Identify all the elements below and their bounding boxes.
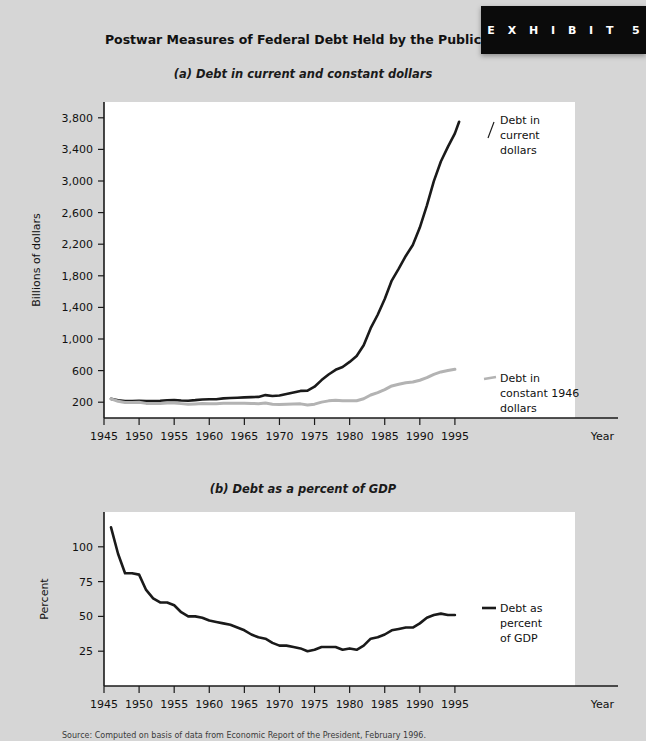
series-label-debt-gdp: percent — [500, 617, 543, 630]
series-label-current-dollars: dollars — [500, 144, 537, 157]
x-tick-label: 1970 — [265, 698, 293, 711]
y-tick-label: 3,400 — [62, 143, 94, 156]
x-tick-label: 1995 — [441, 698, 469, 711]
x-tick-label: 1990 — [406, 430, 434, 443]
x-tick-label: 1960 — [195, 430, 223, 443]
chart-a-svg: 2006001,0001,4001,8002,2002,6003,0003,40… — [18, 88, 628, 463]
x-tick-label: 1950 — [125, 698, 153, 711]
chart-b-svg: 2550751001945195019551960196519701975198… — [18, 500, 628, 722]
y-tick-label: 600 — [72, 365, 93, 378]
x-tick-label: 1980 — [336, 698, 364, 711]
series-label-current-dollars: current — [500, 129, 540, 142]
series-label-debt-gdp: of GDP — [500, 632, 538, 645]
y-tick-label: 75 — [79, 576, 93, 589]
y-tick-label: 200 — [72, 396, 93, 409]
x-axis-title: Year — [590, 430, 615, 443]
panel-a-subtitle: (a) Debt in current and constant dollars — [0, 67, 646, 81]
x-tick-label: 1960 — [195, 698, 223, 711]
x-tick-label: 1955 — [160, 698, 188, 711]
chart-panel-debt-gdp: 2550751001945195019551960196519701975198… — [18, 500, 628, 722]
y-tick-label: 50 — [79, 610, 93, 623]
series-label-current-dollars: Debt in — [500, 114, 540, 127]
x-tick-label: 1990 — [406, 698, 434, 711]
series-label-constant-dollars: Debt in — [500, 372, 540, 385]
x-tick-label: 1955 — [160, 430, 188, 443]
x-tick-label: 1985 — [371, 430, 399, 443]
y-tick-label: 3,800 — [62, 112, 94, 125]
y-tick-label: 1,800 — [62, 270, 94, 283]
x-tick-label: 1985 — [371, 698, 399, 711]
y-tick-label: 2,200 — [62, 238, 94, 251]
y-tick-label: 100 — [72, 541, 93, 554]
y-tick-label: 1,400 — [62, 301, 94, 314]
chart-panel-debt-dollars: 2006001,0001,4001,8002,2002,6003,0003,40… — [18, 88, 628, 463]
y-tick-label: 1,000 — [62, 333, 94, 346]
plot-background — [104, 512, 575, 686]
panel-b-subtitle: (b) Debt as a percent of GDP — [0, 482, 646, 496]
x-tick-label: 1965 — [230, 430, 258, 443]
x-tick-label: 1945 — [90, 430, 118, 443]
x-axis-title: Year — [590, 698, 615, 711]
y-tick-label: 3,000 — [62, 175, 94, 188]
source-note: Source: Computed on basis of data from E… — [62, 731, 426, 740]
y-tick-label: 2,600 — [62, 207, 94, 220]
x-tick-label: 1995 — [441, 430, 469, 443]
page-title: Postwar Measures of Federal Debt Held by… — [0, 32, 646, 47]
x-tick-label: 1975 — [301, 430, 329, 443]
y-axis-title: Billions of dollars — [30, 213, 43, 307]
x-tick-label: 1965 — [230, 698, 258, 711]
series-label-debt-gdp: Debt as — [500, 602, 543, 615]
y-axis-title: Percent — [38, 578, 51, 620]
x-tick-label: 1945 — [90, 698, 118, 711]
series-label-constant-dollars: constant 1946 — [500, 387, 579, 400]
series-label-constant-dollars: dollars — [500, 402, 537, 415]
x-tick-label: 1975 — [301, 698, 329, 711]
x-tick-label: 1950 — [125, 430, 153, 443]
x-tick-label: 1970 — [265, 430, 293, 443]
y-tick-label: 25 — [79, 645, 93, 658]
x-tick-label: 1980 — [336, 430, 364, 443]
exhibit-page: E X H I B I T 5 Postwar Measures of Fede… — [0, 0, 646, 741]
